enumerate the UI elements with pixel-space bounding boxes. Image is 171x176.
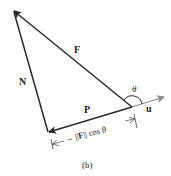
dimension-tick-right: [134, 114, 137, 128]
label-theta: θ: [132, 84, 137, 94]
vector-N: [14, 12, 48, 132]
vector-F: [14, 11, 132, 107]
projection-suffix: || cos: [82, 125, 103, 139]
dimension-tick-left: [51, 139, 53, 149]
projection-label: ||F|| cos θ: [74, 124, 107, 141]
vector-projection-diagram: F N P u θ ||F|| cos θ (b): [0, 0, 171, 176]
dimension-dash: [68, 139, 72, 140]
label-P: P: [84, 104, 90, 115]
caption: (b): [82, 160, 93, 170]
label-u: u: [146, 103, 152, 114]
label-N: N: [19, 76, 27, 87]
svg-text:||F|| cos θ: ||F|| cos θ: [74, 124, 107, 141]
dimension-arrow-right: [125, 119, 134, 121]
label-F: F: [74, 44, 80, 55]
dimension-arrow-left: [53, 141, 64, 144]
